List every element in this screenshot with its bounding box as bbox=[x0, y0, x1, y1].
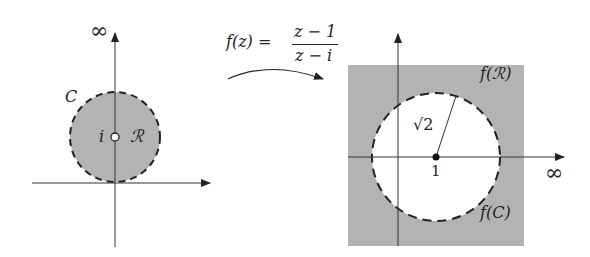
fraction-bar bbox=[292, 44, 338, 45]
right-infinity-label: ∞ bbox=[545, 162, 563, 184]
left-plot bbox=[32, 33, 210, 247]
mapping-arrow bbox=[228, 70, 323, 80]
sqrt2-label: √2 bbox=[413, 117, 433, 133]
point-i-hole bbox=[111, 133, 119, 141]
formula-numerator: z − 1 bbox=[294, 24, 336, 40]
formula-denominator: z − i bbox=[295, 48, 332, 64]
region-R-label: ℛ bbox=[130, 128, 144, 145]
center-point bbox=[433, 154, 440, 161]
center-1-label: 1 bbox=[431, 164, 441, 179]
point-i-label: i bbox=[99, 129, 104, 145]
curve-C-label: C bbox=[65, 89, 77, 105]
right-plot bbox=[348, 34, 564, 246]
left-infinity-label: ∞ bbox=[90, 20, 108, 42]
formula-lhs: f(z) = bbox=[226, 34, 271, 50]
f-C-label: f(C) bbox=[480, 205, 511, 221]
f-R-label: f(ℛ) bbox=[480, 66, 511, 82]
